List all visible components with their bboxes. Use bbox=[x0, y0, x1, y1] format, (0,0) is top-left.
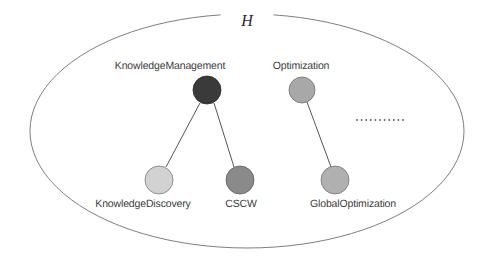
node-label-knowledge-discovery: KnowledgeDiscovery bbox=[95, 198, 190, 210]
ellipsis-dot bbox=[393, 119, 395, 121]
node-group bbox=[145, 76, 349, 194]
set-label-h: H bbox=[241, 12, 253, 30]
edge-group bbox=[166, 102, 331, 167]
node-label-cscw: CSCW bbox=[225, 198, 256, 210]
ellipsis-dot bbox=[398, 119, 400, 121]
node-label-knowledge-management: KnowledgeManagement bbox=[115, 60, 225, 72]
edge-line bbox=[307, 102, 331, 167]
ellipsis-dot bbox=[370, 119, 372, 121]
node-circle-cscw[interactable] bbox=[226, 166, 254, 194]
edge-line bbox=[166, 103, 200, 167]
outer-ellipse-outline bbox=[30, 15, 464, 248]
ellipsis-dot bbox=[375, 119, 377, 121]
node-circle-knowledge-discovery[interactable] bbox=[145, 166, 173, 194]
ellipsis-dot bbox=[379, 119, 381, 121]
node-label-global-optimization: GlobalOptimization bbox=[310, 198, 396, 210]
node-circle-knowledge-management[interactable] bbox=[193, 76, 221, 104]
ellipsis-dot bbox=[361, 119, 363, 121]
ellipsis-dot bbox=[388, 119, 390, 121]
set-boundary bbox=[30, 15, 464, 248]
ellipsis-dot bbox=[402, 119, 404, 121]
node-circle-optimization[interactable] bbox=[289, 77, 315, 103]
edge-line bbox=[214, 103, 234, 167]
diagram-canvas: H KnowledgeManagementOptimizationKnowled… bbox=[0, 0, 501, 264]
node-circle-global-optimization[interactable] bbox=[321, 166, 349, 194]
diagram-svg bbox=[0, 0, 501, 264]
ellipsis-dot bbox=[365, 119, 367, 121]
node-label-optimization: Optimization bbox=[273, 60, 330, 72]
ellipsis-dot bbox=[384, 119, 386, 121]
continuation-ellipsis bbox=[356, 119, 404, 121]
ellipsis-dot bbox=[356, 119, 358, 121]
